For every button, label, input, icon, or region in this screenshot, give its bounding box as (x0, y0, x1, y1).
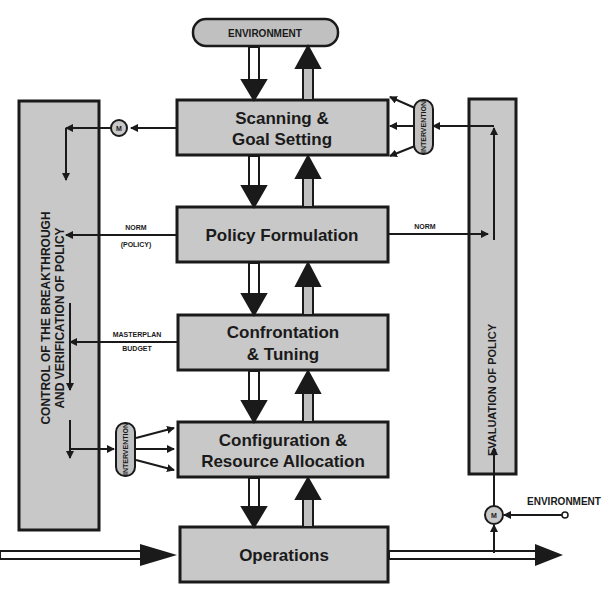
box-confrontation-tuning: Confrontation & Tuning (178, 315, 388, 370)
monitor-bottom-label: M (491, 512, 497, 519)
intervention-node-top: INTERVENTION (414, 100, 433, 154)
intervention-node-left: INTERVENTION (116, 423, 135, 476)
control-panel: CONTROL OF THE BREAKTHROUGH AND VERIFICA… (19, 101, 99, 530)
control-panel-label-line2: AND VERIFICATION OF POLICY (53, 227, 67, 408)
box-label-line1: Scanning & (235, 109, 329, 128)
evaluation-panel: EVALUATION OF POLICY (469, 99, 516, 474)
environment-input-terminal (562, 512, 568, 518)
intervention-left-label: INTERVENTION (122, 423, 129, 475)
box-scanning-goal-setting: Scanning & Goal Setting (177, 100, 388, 155)
environment-right-label: ENVIRONMENT (527, 496, 601, 507)
control-panel-label-line1: CONTROL OF THE BREAKTHROUGH (39, 211, 53, 424)
box-label-line2: & Tuning (247, 345, 319, 364)
box-configuration-resource-allocation: Configuration & Resource Allocation (178, 422, 388, 477)
norm-right-label: NORM (414, 223, 436, 230)
monitor-top-label: M (116, 125, 122, 132)
box-policy-formulation: Policy Formulation (177, 207, 388, 262)
box-label-line1: Configuration & (219, 431, 347, 450)
monitor-node-top: M (111, 120, 127, 136)
evaluation-panel-label: EVALUATION OF POLICY (486, 323, 498, 456)
budget-label: BUDGET (122, 345, 152, 352)
intervention-top-label: INTERVENTION (420, 101, 427, 153)
monitor-node-bottom: M (485, 506, 503, 524)
input-flow-arrow (0, 544, 177, 566)
norm-policy-label-2: (POLICY) (121, 241, 152, 249)
box-label-line2: Resource Allocation (201, 452, 365, 471)
box-operations: Operations (180, 527, 388, 582)
box-label-line1: Policy Formulation (205, 226, 358, 245)
masterplan-label: MASTERPLAN (113, 331, 162, 338)
box-label-line1: Confrontation (227, 323, 339, 342)
box-label-line1: Operations (239, 546, 329, 565)
box-label-line2: Goal Setting (232, 130, 332, 149)
policy-cycle-diagram: CONTROL OF THE BREAKTHROUGH AND VERIFICA… (0, 0, 609, 593)
norm-policy-label-1: NORM (125, 224, 147, 231)
environment-node-top: ENVIRONMENT (193, 19, 338, 46)
output-flow-arrow (389, 544, 563, 566)
environment-top-label: ENVIRONMENT (228, 28, 302, 39)
